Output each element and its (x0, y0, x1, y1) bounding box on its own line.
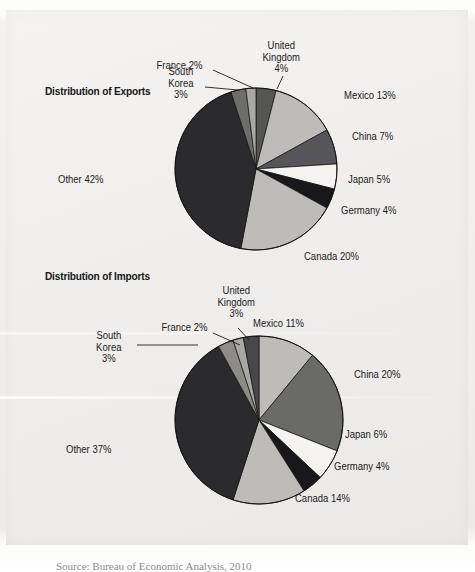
slice-label-exports-mexico: Mexico 13% (344, 90, 420, 102)
slice-label-exports-other: Other 42% (58, 174, 126, 186)
slice-label-imports-france: France 2% (155, 322, 214, 334)
slice-label-imports-other: Other 37% (66, 444, 134, 456)
slice-label-imports-canada: Canada 14% (295, 493, 375, 505)
slice-label-exports-japan: Japan 5% (348, 174, 415, 186)
pie-imports (175, 336, 343, 504)
chart-title-imports: Distribution of Imports (45, 270, 150, 282)
leader-line-exports-south_korea (205, 87, 238, 90)
slice-label-imports-japan: Japan 6% (345, 429, 412, 441)
slice-label-imports-china: China 20% (354, 369, 426, 381)
slice-label-exports-germany: Germany 4% (341, 205, 419, 217)
leader-line-exports-france (213, 70, 253, 88)
slice-label-exports-china: China 7% (352, 131, 419, 143)
figure-source-caption: Source: Bureau of Economic Analysis, 201… (56, 560, 252, 572)
slice-label-imports-germany: Germany 4% (334, 461, 412, 473)
chart-title-exports: Distribution of Exports (45, 85, 150, 97)
slice-label-imports-mexico: Mexico 11% (253, 318, 329, 330)
slice-label-exports-united_kingdom: UnitedKingdom4% (248, 40, 315, 75)
slice-label-exports-canada: Canada 20% (304, 251, 382, 263)
pie-exports (175, 88, 337, 250)
slice-label-imports-south_korea: SouthKorea3% (86, 330, 132, 365)
slice-label-exports-south_korea: SouthKorea3% (160, 66, 202, 101)
slice-label-imports-united_kingdom: UnitedKingdom3% (203, 285, 270, 320)
leader-line-exports-united_kingdom (277, 76, 283, 89)
